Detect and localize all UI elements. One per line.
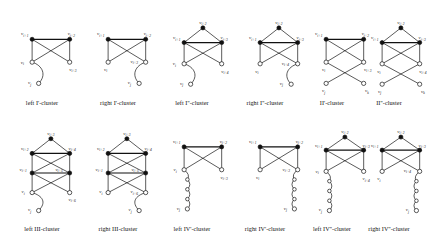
cluster-left-iv-prime: vi+1vi+2vivi+3vj (158, 122, 238, 224)
caption-right-iii: right III-cluster (82, 225, 154, 232)
vertex-v_i2 (399, 135, 403, 139)
vertex-v_i3 (125, 137, 129, 141)
pendant-curve (184, 64, 195, 84)
vertex-v_j (137, 208, 141, 212)
vertex-label: vi (173, 61, 176, 67)
vertex-label: vi+1 (97, 31, 105, 37)
vertex-label: vi+3 (131, 59, 139, 65)
vertex-v_i1 (182, 145, 186, 149)
cluster-right-iv-double-prime: vi+2vi+1vi+3vivi+4vj (356, 122, 431, 224)
edge (260, 28, 279, 43)
vertex-v_i5 (68, 171, 72, 175)
vertex-v_i2 (106, 151, 110, 155)
vertex-v_i3 (220, 168, 224, 172)
vertex-v_i1 (30, 37, 34, 41)
vertex-label: vj (284, 206, 287, 212)
vertex-label: vj (322, 88, 325, 94)
vertex-v_i3 (68, 60, 72, 64)
vertex-label: vi+3 (69, 67, 77, 73)
vertex-label: vi+3 (47, 131, 55, 137)
edge (108, 139, 127, 154)
chain-node (415, 199, 419, 203)
vertex-v_i2 (399, 26, 403, 30)
chain-node (415, 179, 419, 183)
vertex-v_i1 (324, 37, 328, 41)
vertex-v_i4 (220, 62, 224, 66)
vertex-label: vi+1 (315, 31, 323, 37)
edge (32, 139, 51, 154)
chain-node (293, 178, 297, 182)
vertex-v_i3 (49, 137, 53, 141)
vertex-label: vi+1 (173, 35, 181, 41)
vertex-label: vi+4 (404, 168, 412, 174)
vertex-v_i6 (144, 190, 148, 194)
vertex-v_i2 (201, 26, 205, 30)
chain-node (293, 188, 297, 192)
vertex-v_j (37, 81, 41, 85)
vertex-v_i4 (418, 169, 422, 173)
caption-left-iv-prime: left IV'-cluster (156, 225, 228, 232)
vertex-label: vi+6 (131, 189, 139, 195)
vertex-v_i4 (418, 62, 422, 66)
vertex-label: vj (177, 206, 180, 212)
edge (401, 137, 420, 150)
cluster-left-i-double-prime: vi+2vi+1vi+3vivi+4vj (158, 10, 238, 98)
chain-node (328, 189, 332, 193)
edge (382, 137, 401, 150)
vertex-v_i (182, 168, 186, 172)
vertex-label: vi+1 (19, 167, 27, 173)
vertex-v_i2 (30, 151, 34, 155)
vertex-label: vj (180, 81, 183, 87)
caption-ii-double-prime: II''-cluster (356, 99, 422, 106)
vertex-label: vk (421, 89, 425, 95)
pendant-curve (135, 62, 146, 83)
vertex-label: vi+2 (275, 20, 283, 26)
vertex-label: vj (319, 207, 322, 213)
vertex-v_i2 (144, 37, 148, 41)
chain-node (293, 197, 297, 201)
vertex-label: vi+2 (397, 129, 405, 135)
vertex-v_i1 (106, 171, 110, 175)
vertex-v_j (380, 82, 384, 86)
vertex-label: vi+2 (199, 20, 207, 26)
vertex-label: vi (99, 189, 102, 195)
caption-left-iv-double-prime: left IV''-cluster (300, 225, 364, 232)
vertex-label: vi+1 (371, 35, 379, 41)
vertex-label: vi+1 (173, 139, 181, 145)
vertex-v_j (324, 81, 328, 85)
vertex-v_i1 (258, 41, 262, 45)
vertex-v_i (106, 190, 110, 194)
vertex-v_i1 (380, 41, 384, 45)
vertex-v_i2 (277, 26, 281, 30)
cluster-ii-double-prime: vi+2vi+1vi+3vivi+4vjvk (356, 10, 431, 98)
vertex-label: vi+1 (315, 143, 323, 149)
vertex-v_i (324, 60, 328, 64)
caption-left-i-double-prime: left I''-cluster (156, 99, 228, 106)
cluster-graph-left-i-double-prime: vi+2vi+1vi+3vivi+4vj (158, 10, 238, 98)
caption-right-i-prime: right I'-cluster (82, 99, 154, 106)
vertex-label: vi+3 (220, 175, 228, 181)
vertex-v_i1 (106, 37, 110, 41)
vertex-label: vi+2 (341, 129, 349, 135)
vertex-label: vi (322, 67, 325, 73)
vertex-v_i2 (220, 145, 224, 149)
vertex-v_k (418, 82, 422, 86)
vertex-label: vi (22, 189, 25, 195)
vertex-label: vi+2 (97, 146, 105, 152)
vertex-v_j (189, 82, 193, 86)
vertex-v_i1 (258, 145, 262, 149)
vertex-label: vi+2 (21, 146, 29, 152)
vertex-v_i (106, 60, 110, 64)
vertex-label: vj (406, 207, 409, 213)
vertex-label: vj (280, 81, 283, 87)
edge (203, 28, 222, 43)
vertex-label: vi (174, 167, 177, 173)
vertex-label: vj (128, 80, 131, 86)
vertex-v_i (30, 60, 34, 64)
caption-right-i-double-prime: right I''-cluster (232, 99, 298, 106)
vertex-label: vi+1 (249, 139, 257, 145)
cluster-right-i-prime: vi+1vi+2vivi+3vj (82, 10, 162, 98)
cluster-right-iii: vi+3vi+2vi+4vi+1vi+5vivi+6vj (82, 122, 162, 224)
vertex-label: vi+3 (283, 167, 291, 173)
vertex-v_j (37, 208, 41, 212)
